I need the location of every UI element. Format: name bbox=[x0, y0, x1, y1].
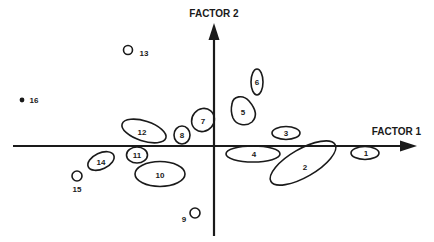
item-10: 10 bbox=[135, 162, 185, 187]
item-10-label: 10 bbox=[156, 171, 165, 180]
item-13-label: 13 bbox=[140, 49, 149, 58]
item-12-label: 12 bbox=[138, 128, 147, 137]
factor-2-axis bbox=[209, 23, 220, 236]
arrow-up-icon bbox=[209, 23, 220, 40]
item-4: 4 bbox=[226, 146, 280, 162]
item-15-label: 15 bbox=[73, 185, 82, 194]
item-9: 9 bbox=[182, 208, 200, 224]
item-2: 2 bbox=[264, 132, 342, 193]
y-axis-label: FACTOR 2 bbox=[189, 8, 239, 19]
item-9-label: 9 bbox=[182, 215, 187, 224]
item-5-label: 5 bbox=[241, 108, 246, 117]
item-6: 6 bbox=[251, 69, 263, 95]
item-16: 16 bbox=[20, 96, 39, 105]
item-13: 13 bbox=[124, 46, 149, 58]
item-14: 14 bbox=[85, 148, 117, 174]
factor-plot-diagram: FACTOR 2 FACTOR 1 13 16 6 5 7 8 12 3 bbox=[0, 0, 434, 242]
item-2-label: 2 bbox=[303, 163, 308, 172]
item-5: 5 bbox=[231, 97, 255, 125]
item-3: 3 bbox=[272, 127, 300, 140]
item-6-label: 6 bbox=[255, 78, 260, 87]
item-4-label: 4 bbox=[252, 150, 257, 159]
item-1-label: 1 bbox=[364, 149, 369, 158]
item-1: 1 bbox=[351, 147, 379, 160]
item-11: 11 bbox=[127, 147, 148, 163]
item-8: 8 bbox=[174, 126, 190, 144]
item-7-label: 7 bbox=[201, 117, 206, 126]
item-12: 12 bbox=[119, 114, 169, 147]
item-14-label: 14 bbox=[97, 158, 106, 167]
item-15: 15 bbox=[72, 171, 82, 194]
item-3-label: 3 bbox=[284, 129, 289, 138]
item-16-label: 16 bbox=[30, 96, 39, 105]
item-8-label: 8 bbox=[180, 131, 185, 140]
arrow-right-icon bbox=[400, 141, 417, 152]
x-axis-label: FACTOR 1 bbox=[372, 126, 422, 137]
item-11-label: 11 bbox=[133, 151, 142, 160]
